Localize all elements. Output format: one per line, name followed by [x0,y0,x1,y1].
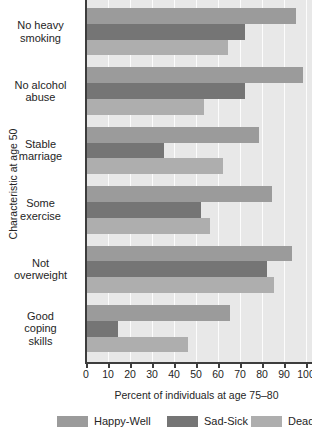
bar-happy-well [87,127,259,143]
legend: Happy-WellSad-SickDead [0,415,312,430]
category-label: Goodcopingskills [0,305,81,352]
bar-dead [87,337,188,353]
legend-item-happy-well: Happy-Well [57,415,151,427]
bar-sad-sick [87,202,201,218]
bar-sad-sick [87,261,267,277]
bar-dead [87,277,274,293]
legend-swatch [251,416,282,427]
legend-item-sad-sick: Sad-Sick [167,415,248,427]
bar-dead [87,40,228,56]
category-label: Notoverweight [0,246,81,293]
gridline [284,0,285,362]
x-tick-labels: 0102030405060708090100 [87,368,312,380]
legend-label: Sad-Sick [204,415,248,427]
x-tick-label: 60 [212,368,224,380]
legend-item-dead: Dead [251,415,312,427]
bar-sad-sick [87,24,245,40]
y-axis-title: Characteristic at age 50 [7,129,19,240]
bar-happy-well [87,246,292,262]
x-tick-label: 10 [102,368,114,380]
bar-happy-well [87,8,296,24]
x-tick-label: 80 [256,368,268,380]
legend-swatch [167,416,198,427]
x-axis-title: Percent of individuals at age 75–80 [86,389,307,401]
category-label: No alcoholabuse [0,67,81,114]
legend-swatch [57,416,88,427]
bar-dead [87,218,210,234]
gridline [306,0,307,362]
bar-happy-well [87,305,230,321]
x-tick-label: 100 [297,368,312,380]
bar-chart-figure: No heavysmokingNo alcoholabuseStablemarr… [0,0,312,432]
legend-label: Dead [288,415,312,427]
x-tick-label: 20 [124,368,136,380]
x-tick-label: 70 [234,368,246,380]
bar-happy-well [87,67,303,83]
bar-happy-well [87,186,272,202]
gridline [240,0,241,362]
x-tick-label: 0 [83,368,89,380]
bar-sad-sick [87,83,245,99]
bar-sad-sick [87,321,118,337]
plot-area [85,0,312,364]
legend-label: Happy-Well [94,415,151,427]
bar-dead [87,158,223,174]
x-tick-label: 30 [146,368,158,380]
gridline [262,0,263,362]
x-tick-label: 90 [278,368,290,380]
bar-dead [87,99,204,115]
category-label: No heavysmoking [0,8,81,55]
x-tick-label: 50 [190,368,202,380]
x-tick-label: 40 [168,368,180,380]
bar-sad-sick [87,143,164,159]
